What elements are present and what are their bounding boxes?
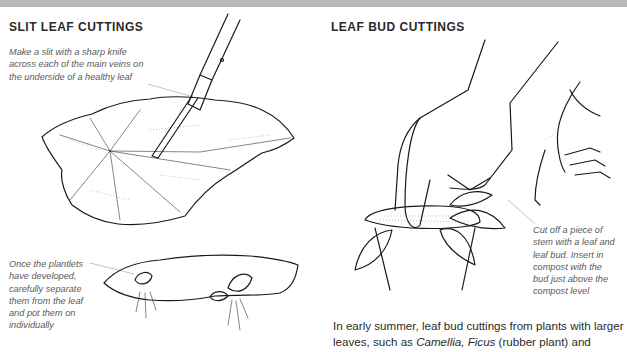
hand-holding-stem-cutting-illustration [0, 0, 627, 352]
caption-cut-off-stem: Cut off a piece of stem with a leaf and … [533, 224, 615, 298]
caption-line: leaf bud. Insert in [533, 249, 615, 261]
body-line: leaves, such as Camellia, Ficus (rubber … [333, 334, 627, 350]
caption-line: compost level [533, 285, 615, 297]
caption-line: compost with the [533, 261, 615, 273]
plant-name-emphasis: Camellia, Ficus [416, 335, 495, 348]
caption-line: stem with a leaf and [533, 236, 615, 248]
body-paragraph-leaf-bud: In early summer, leaf bud cuttings from … [333, 318, 627, 349]
body-line: In early summer, leaf bud cuttings from … [333, 318, 627, 334]
caption-line: Cut off a piece of [533, 224, 615, 236]
caption-line: bud just above the [533, 273, 615, 285]
